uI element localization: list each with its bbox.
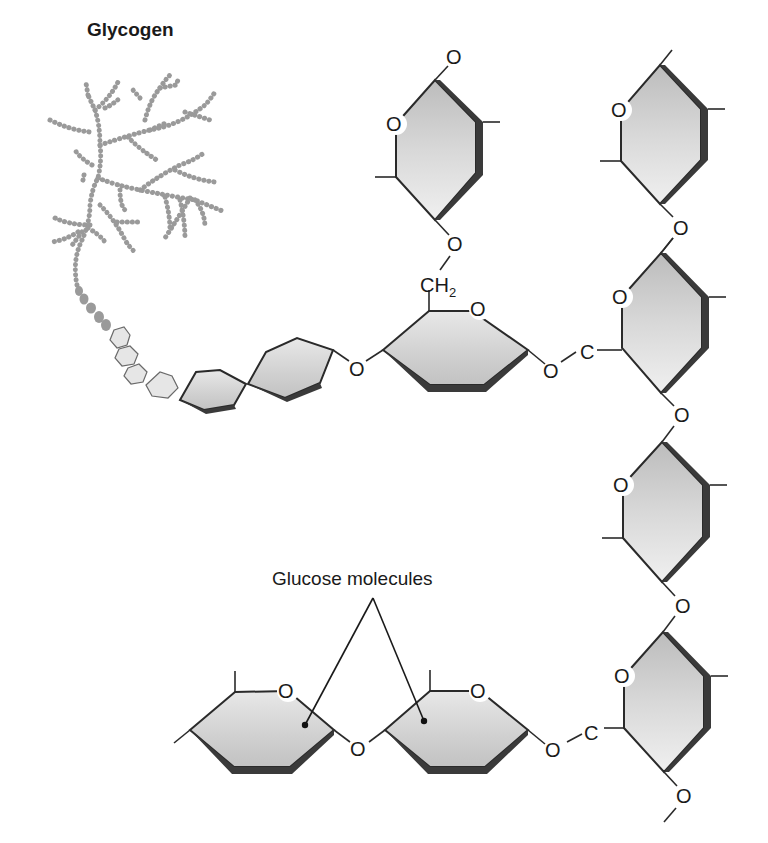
- oxygen-atom: O: [674, 404, 690, 426]
- bond: [661, 238, 673, 253]
- glucose-ring-branch-point: [383, 298, 528, 392]
- oxygen-atom: O: [349, 358, 365, 380]
- ring-oxygen-atom: O: [278, 680, 294, 702]
- oxygen-atom: O: [446, 46, 462, 68]
- figure-title: Glycogen: [87, 19, 174, 40]
- bond: [440, 256, 450, 270]
- ch2-group-label: CH2: [420, 274, 456, 300]
- oxygen-atom: O: [350, 738, 366, 760]
- glucose-ring-large: [248, 338, 333, 402]
- carbon-atom: C: [584, 722, 598, 744]
- bond: [334, 730, 350, 742]
- bond: [660, 204, 673, 217]
- bond: [369, 730, 385, 742]
- callout-label: Glucose molecules: [272, 568, 433, 589]
- glucose-chain-small: [110, 327, 178, 398]
- oxygen-atom: O: [545, 739, 561, 761]
- bond: [366, 350, 383, 361]
- oxygen-atom: O: [447, 233, 463, 255]
- ring-oxygen-atom: O: [470, 298, 486, 320]
- bond: [561, 352, 576, 362]
- glucose-ring-right-1: [610, 65, 708, 204]
- ring-oxygen-atom: O: [612, 286, 628, 308]
- bond: [664, 772, 677, 786]
- glucose-ring-right-4: [613, 632, 711, 772]
- glucose-ring-right-3: [612, 442, 710, 582]
- glycogen-diagram: Glycogen: [0, 0, 768, 843]
- bond: [528, 730, 545, 744]
- glucose-ring-side-chain: [385, 80, 483, 220]
- bond: [435, 220, 449, 235]
- bond: [662, 426, 674, 442]
- carbon-atom: C: [580, 341, 594, 363]
- ring-oxygen-atom: O: [613, 474, 629, 496]
- ring-oxygen-atom: O: [614, 665, 630, 687]
- bond: [567, 734, 582, 742]
- oxygen-atom: O: [673, 217, 689, 239]
- oxygen-atom: O: [543, 360, 559, 382]
- bond: [663, 616, 675, 632]
- glucose-ring-bottom-1: [190, 680, 334, 774]
- glucose-ring-right-2: [611, 253, 709, 393]
- glycogen-branch-icon: [50, 75, 225, 285]
- bond: [660, 50, 672, 65]
- glucose-ring-bottom-2: [385, 680, 528, 774]
- glucose-ring-medium: [180, 370, 246, 414]
- glucose-unit-dots: [75, 286, 111, 331]
- ring-oxygen-atom: O: [470, 680, 486, 702]
- bond: [662, 582, 675, 596]
- ring-oxygen-atom: O: [611, 99, 627, 121]
- bond: [664, 808, 676, 822]
- bond: [661, 393, 674, 406]
- bond: [174, 730, 190, 743]
- bond: [435, 66, 448, 80]
- ring-oxygen-atom: O: [386, 113, 402, 135]
- oxygen-atom: O: [676, 785, 692, 807]
- bond: [333, 350, 349, 361]
- oxygen-atom: O: [675, 595, 691, 617]
